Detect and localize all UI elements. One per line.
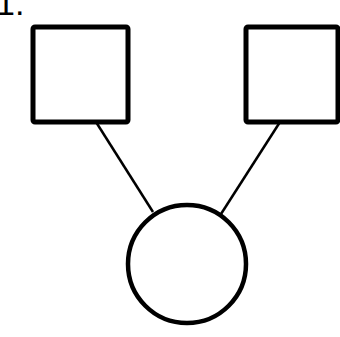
edge-right-parent-to-child (221, 122, 280, 214)
edge-left-parent-to-child (96, 122, 153, 212)
pedigree-diagram (0, 0, 340, 337)
female-circle-child (128, 205, 246, 323)
male-square-left (33, 27, 128, 122)
male-square-right (246, 27, 338, 122)
